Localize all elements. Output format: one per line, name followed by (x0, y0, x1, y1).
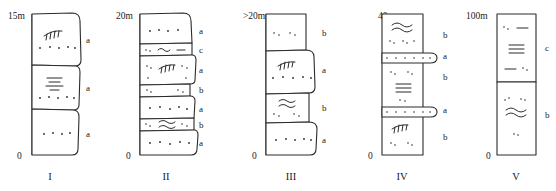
column-3-bed-2 (266, 50, 315, 94)
column-5-facies-1: c (545, 43, 549, 53)
column-2-bed-6 (140, 118, 194, 131)
column-4-lens-2 (382, 107, 437, 117)
column-3-bed-3 (266, 93, 309, 123)
column-5: 100m 0 c b V (466, 11, 550, 182)
column-1-roman: I (48, 171, 52, 182)
column-3-bed-4 (266, 122, 317, 155)
column-4-facies-4: a (443, 105, 447, 115)
column-4-facies-2: a (443, 51, 447, 61)
column-1-bed-3 (32, 109, 79, 155)
column-1-scale-label: 15m (8, 11, 26, 21)
column-1-facies-2: a (86, 83, 90, 93)
column-4-facies-1: b (443, 30, 448, 40)
column-2-roman: II (163, 171, 170, 182)
column-5-zero-label: 0 (486, 151, 491, 161)
column-3-facies-2: a (322, 65, 326, 75)
column-3-facies-4: a (322, 135, 326, 145)
column-5-scale-label: 100m (466, 11, 488, 21)
column-1-facies-1: a (86, 35, 90, 45)
column-3-zero-label: 0 (252, 151, 257, 161)
column-5-roman: V (512, 171, 520, 182)
column-2-zero-label: 0 (126, 151, 131, 161)
column-2-facies-4: b (199, 85, 204, 95)
column-1: 15m 0 a a (8, 11, 90, 182)
column-5-bed-2 (497, 82, 536, 155)
column-3-roman: III (286, 171, 297, 182)
column-5-bed-1 (497, 14, 536, 82)
column-4-zero-label: 0 (368, 151, 373, 161)
column-1-bed-2 (32, 65, 80, 110)
column-2-bed-5 (140, 96, 195, 119)
column-1-bed-1 (32, 13, 81, 66)
column-4-roman: IV (396, 171, 407, 182)
column-1-zero-label: 0 (17, 151, 22, 161)
column-2-facies-6: b (199, 120, 204, 130)
column-2-bed-1 (140, 13, 192, 44)
column-3-scale-label: >20m (243, 11, 266, 21)
column-2-facies-2: c (199, 45, 203, 55)
column-2-facies-7: a (199, 138, 203, 148)
column-2-bed-3 (140, 55, 196, 85)
column-2-facies-1: a (199, 26, 203, 36)
column-2-facies-3: a (199, 65, 203, 75)
column-4-facies-3: b (443, 72, 448, 82)
column-1-facies-3: a (86, 129, 90, 139)
column-4: 40m 0 b a (368, 11, 448, 182)
column-2-scale-label: 20m (116, 11, 134, 21)
column-3: >20m 0 b a (243, 11, 327, 182)
column-3-bed-1 (266, 14, 306, 51)
column-4-lens-1 (382, 53, 437, 63)
column-3-facies-1: b (322, 28, 327, 38)
column-2: 20m 0 a c a (116, 11, 204, 182)
column-5-facies-2: b (545, 110, 550, 120)
figure-canvas: 15m 0 a a (0, 0, 556, 191)
column-3-facies-3: b (322, 103, 327, 113)
stratigraphic-columns-figure: 15m 0 a a (0, 0, 556, 191)
column-2-facies-5: a (199, 104, 203, 114)
column-4-facies-5: b (443, 132, 448, 142)
